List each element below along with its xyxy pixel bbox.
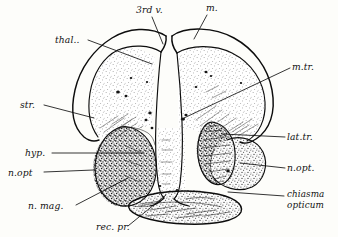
label-thalamus: thal..	[55, 34, 79, 45]
label-m-tr: m.tr.	[292, 61, 314, 72]
label-striatum: str.	[20, 99, 35, 110]
label-n-opt-right: n.opt.	[287, 162, 314, 173]
brain-section-plate: 3rd v. m. thal.. m.tr. str. lat.tr. hyp.…	[0, 0, 338, 237]
label-m: m.	[206, 2, 218, 13]
label-rec-pr: rec. pr.	[96, 221, 130, 232]
label-third-ventricle: 3rd v.	[136, 4, 163, 15]
label-n-opt-left: n.opt	[8, 167, 33, 178]
figure-root: 3rd v. m. thal.. m.tr. str. lat.tr. hyp.…	[0, 0, 338, 237]
label-n-mag: n. mag.	[28, 200, 63, 211]
label-chiasma-line1: chiasma	[287, 189, 324, 199]
label-chiasma-line2: opticum	[287, 200, 324, 210]
label-hypothalamus: hyp.	[25, 147, 45, 158]
label-lat-tr: lat.tr.	[287, 131, 313, 142]
